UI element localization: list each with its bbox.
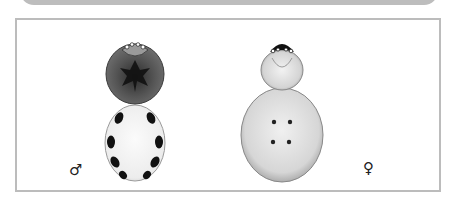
male-symbol: ♂ bbox=[69, 163, 82, 178]
female-cephalothorax bbox=[261, 50, 303, 90]
male-spider-illustration bbox=[94, 36, 176, 184]
female-symbol: ♀ bbox=[363, 161, 374, 176]
top-bar bbox=[20, 0, 438, 5]
female-spider-illustration bbox=[238, 36, 328, 184]
female-abdomen bbox=[241, 88, 323, 182]
